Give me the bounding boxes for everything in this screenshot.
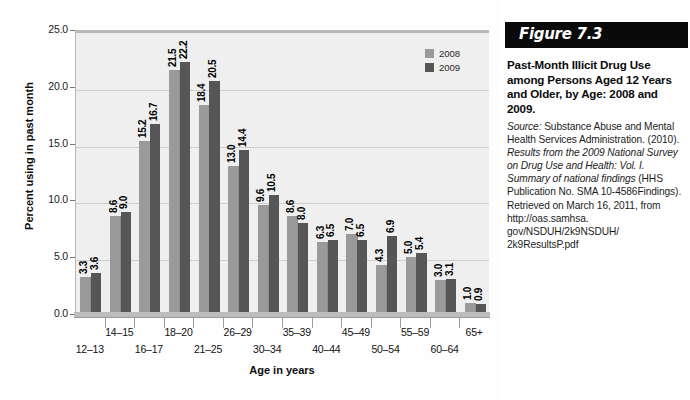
bar-2008-55–59[interactable] <box>406 257 417 314</box>
source-line: gov/NSDUH/2k9NSDUH/ <box>507 226 619 237</box>
bar-group: 4.36.9 <box>376 33 397 314</box>
legend-swatch-icon-2009 <box>425 63 434 72</box>
gridline <box>76 90 489 91</box>
bar-2008-60–64[interactable] <box>435 280 446 314</box>
bar-value-label: 0.9 <box>473 288 484 301</box>
bar-value-label: 18.4 <box>196 84 207 102</box>
bar-value-label: 14.4 <box>237 129 248 147</box>
figure-number-band: Figure 7.3 <box>505 22 688 48</box>
bar-group: 9.610.5 <box>258 33 279 314</box>
bar-value-label: 7.0 <box>344 218 355 231</box>
bar-value-label: 8.6 <box>108 200 119 213</box>
bar-2009-45–49[interactable] <box>357 240 367 314</box>
bar-2009-12–13[interactable] <box>91 273 101 314</box>
x-axis-category-label: 45–49 <box>332 326 380 338</box>
x-axis-label: Age in years <box>75 364 489 376</box>
source-line: from the 2009 National Survey <box>543 147 678 158</box>
bar-group: 21.522.2 <box>169 33 190 314</box>
x-axis-category-label: 12–13 <box>66 343 114 355</box>
bar-2008-12–13[interactable] <box>80 277 91 314</box>
bar-2009-35–39[interactable] <box>298 223 308 314</box>
legend-label-2009: 2009 <box>439 62 460 73</box>
y-axis-tick-label: 5.0 <box>0 250 68 262</box>
bar-2008-26–29[interactable] <box>228 166 239 314</box>
bar-value-label: 9.6 <box>255 189 266 202</box>
y-axis-tick-label: 15.0 <box>0 137 68 149</box>
bar-value-label: 10.5 <box>266 173 277 191</box>
bar-value-label: 9.0 <box>118 196 129 209</box>
x-axis-category-label: 18–20 <box>155 326 203 338</box>
bar-value-label: 13.0 <box>226 145 237 163</box>
y-axis-tick-label: 25.0 <box>0 23 68 35</box>
x-axis-category-label: 16–17 <box>125 343 173 355</box>
source-line: No. SMA 10-4586Findings). <box>558 186 681 197</box>
x-axis-category-label: 55–59 <box>391 326 439 338</box>
bar-value-label: 4.3 <box>374 249 385 262</box>
x-axis: 12–1314–1516–1718–2021–2526–2930–3435–39… <box>75 317 489 359</box>
bar-2008-45–49[interactable] <box>346 234 357 314</box>
bar-group: 3.03.1 <box>435 33 456 314</box>
bar-2009-40–44[interactable] <box>328 240 338 314</box>
bar-group: 3.33.6 <box>80 33 101 314</box>
y-axis-tick-label: 0.0 <box>0 307 68 319</box>
x-axis-category-label: 26–29 <box>214 326 262 338</box>
bar-value-label: 8.6 <box>285 200 296 213</box>
bar-value-label: 15.2 <box>137 120 148 138</box>
bar-group: 15.216.7 <box>139 33 160 314</box>
source-line: Retrieved on March 16, 2011, <box>507 200 638 211</box>
bar-2008-16–17[interactable] <box>139 141 150 314</box>
bar-2008-14–15[interactable] <box>110 216 121 314</box>
x-axis-category-label: 21–25 <box>184 343 232 355</box>
source-line: 2k9ResultsP.pdf <box>507 239 578 250</box>
x-axis-category-label: 35–39 <box>273 326 321 338</box>
bar-2008-40–44[interactable] <box>317 242 328 314</box>
bar-value-label: 5.4 <box>414 237 425 250</box>
bar-value-label: 6.5 <box>325 224 336 237</box>
bar-value-label: 6.5 <box>355 224 366 237</box>
bar-2008-30–34[interactable] <box>258 205 269 314</box>
bar-2008-21–25[interactable] <box>199 105 210 314</box>
bar-2009-18–20[interactable] <box>180 62 190 314</box>
bar-group: 18.420.5 <box>199 33 220 314</box>
bar-value-label: 21.5 <box>167 49 178 67</box>
bar-2009-21–25[interactable] <box>209 81 219 314</box>
legend-label-2008: 2008 <box>439 48 460 59</box>
gridline <box>76 260 489 261</box>
bar-2009-16–17[interactable] <box>150 124 160 314</box>
bar-2009-26–29[interactable] <box>239 150 249 314</box>
chart-panel: Percent using in past month 0.05.010.015… <box>0 0 496 400</box>
bar-2009-30–34[interactable] <box>269 195 279 314</box>
bar-2008-35–39[interactable] <box>287 216 298 314</box>
source-line: on Drug Use and Health: <box>507 160 617 171</box>
bar-2009-55–59[interactable] <box>416 253 426 314</box>
figure-number-label: Figure 7.3 <box>519 25 602 43</box>
caption-title: Past-Month Illicit Drug Use among Person… <box>507 58 679 116</box>
bar-group: 8.68.0 <box>287 33 308 314</box>
bar-value-label: 3.1 <box>444 263 455 276</box>
bar-value-label: 1.0 <box>462 287 473 300</box>
bar-2008-18–20[interactable] <box>169 70 180 314</box>
x-axis-category-label: 50–54 <box>362 343 410 355</box>
x-axis-category-label: 65+ <box>450 326 498 338</box>
plot-inner: 3.33.68.69.015.216.721.522.218.420.513.0… <box>76 33 489 314</box>
caption-panel: Figure 7.3 Past-Month Illicit Drug Use a… <box>498 0 690 400</box>
caption-source: Source: Substance Abuse and Mental Healt… <box>507 120 683 251</box>
x-axis-category-label: 60–64 <box>421 343 469 355</box>
bar-group: 1.00.9 <box>465 33 486 314</box>
gridline <box>76 203 489 204</box>
bar-group: 13.014.4 <box>228 33 249 314</box>
bar-2009-14–15[interactable] <box>121 212 131 314</box>
bar-2009-60–64[interactable] <box>446 279 456 314</box>
bar-group: 7.06.5 <box>346 33 367 314</box>
bar-2009-50–54[interactable] <box>387 236 397 314</box>
figure-container: Percent using in past month 0.05.010.015… <box>0 0 690 400</box>
bar-2008-50–54[interactable] <box>376 265 387 314</box>
bar-value-label: 5.0 <box>403 241 414 254</box>
bar-value-label: 3.6 <box>89 257 100 270</box>
bar-value-label: 3.0 <box>433 264 444 277</box>
chart-legend: 2008 2009 <box>425 47 460 75</box>
bar-group: 5.05.4 <box>406 33 427 314</box>
bar-value-label: 8.0 <box>296 207 307 220</box>
x-axis-category-label: 40–44 <box>302 343 350 355</box>
bar-value-label: 16.7 <box>148 103 159 121</box>
